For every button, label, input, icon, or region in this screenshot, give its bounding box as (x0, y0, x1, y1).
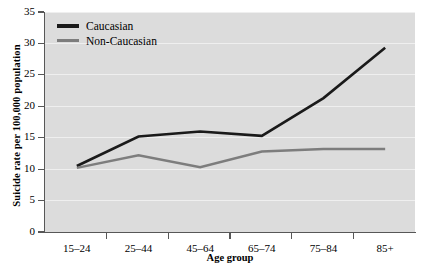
legend-item-non-caucasian: Non-Caucasian (57, 33, 157, 48)
x-axis-title: Age group (45, 252, 415, 263)
legend-label-caucasian: Caucasian (86, 20, 133, 32)
legend-item-caucasian: Caucasian (57, 18, 157, 33)
chart-figure: 05101520253035 15–2425–4445–6465–7475–84… (0, 0, 426, 276)
chart-legend: Caucasian Non-Caucasian (57, 18, 157, 48)
legend-label-non-caucasian: Non-Caucasian (86, 35, 157, 47)
y-axis-title: Suicide rate per 100,000 population (11, 31, 22, 221)
line-series-non-caucasian (77, 149, 385, 168)
legend-swatch-icon-caucasian (57, 24, 79, 28)
legend-swatch-icon-non-caucasian (57, 39, 79, 43)
